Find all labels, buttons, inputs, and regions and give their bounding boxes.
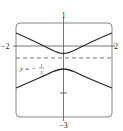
asymptote-label-numerator: 1 <box>40 63 43 68</box>
y-min-label: −3 <box>59 121 68 130</box>
x-min-label: −2 <box>1 42 10 51</box>
asymptote-label-denominator: 2 <box>40 70 43 75</box>
graph-figure: 1 −3 −2 2 y = − 1 2 <box>0 0 123 131</box>
asymptote-label-prefix: y = − <box>19 65 36 73</box>
y-max-label: 1 <box>62 11 66 20</box>
upper-curve <box>16 33 112 54</box>
x-max-label: 2 <box>114 42 118 51</box>
